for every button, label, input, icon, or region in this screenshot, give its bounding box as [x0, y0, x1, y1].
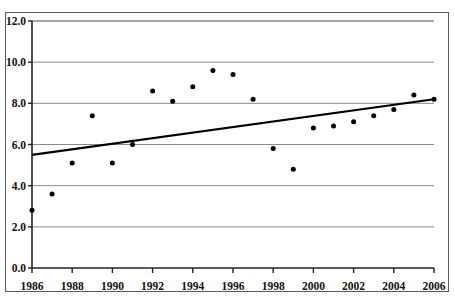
data-point — [70, 161, 75, 166]
data-point — [110, 161, 115, 166]
y-axis-tick-label: 2.0 — [12, 221, 27, 233]
data-point — [210, 68, 215, 73]
x-axis-tick-label: 2006 — [423, 280, 446, 292]
scatter-chart: 0.02.04.06.08.010.012.0 1986198819901992… — [0, 0, 455, 306]
x-axis-tick-label: 1998 — [262, 280, 285, 292]
data-point — [150, 88, 155, 93]
y-axis-tick-label: 0.0 — [12, 262, 27, 274]
data-point — [271, 146, 276, 151]
x-axis-tick-label: 1988 — [61, 280, 84, 292]
x-axis-tick-label: 2000 — [302, 280, 325, 292]
data-point — [231, 72, 236, 77]
x-axis-tick-label: 1992 — [141, 280, 164, 292]
y-axis-tick-label: 12.0 — [6, 15, 26, 27]
data-point — [190, 84, 195, 89]
y-axis-tick-label: 10.0 — [6, 56, 26, 68]
data-point — [170, 99, 175, 104]
data-point — [432, 97, 437, 102]
x-axis-tick-label: 1996 — [222, 280, 245, 292]
x-axis-tick-label: 1986 — [21, 280, 44, 292]
x-axis-tick-label: 1990 — [101, 280, 124, 292]
x-axis-tick-label: 2002 — [342, 280, 365, 292]
data-point — [50, 191, 55, 196]
data-point — [311, 126, 316, 131]
x-axis-tick-label: 1994 — [181, 280, 204, 292]
data-point — [251, 97, 256, 102]
chart-container: 0.02.04.06.08.010.012.0 1986198819901992… — [0, 0, 455, 306]
data-point — [371, 113, 376, 118]
data-point — [331, 123, 336, 128]
y-axis-tick-label: 8.0 — [12, 97, 27, 109]
data-point — [391, 107, 396, 112]
data-point — [411, 93, 416, 98]
y-axis-tick-label: 6.0 — [12, 139, 27, 151]
y-axis-tick-label: 4.0 — [12, 180, 27, 192]
data-point — [291, 167, 296, 172]
data-point — [130, 142, 135, 147]
data-point — [351, 119, 356, 124]
x-axis-tick-label: 2004 — [382, 280, 405, 292]
chart-frame — [6, 13, 449, 292]
data-point — [30, 208, 35, 213]
data-point — [90, 113, 95, 118]
